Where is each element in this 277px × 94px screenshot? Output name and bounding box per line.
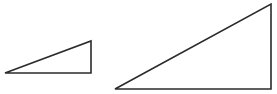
large-triangle — [115, 4, 271, 89]
diagram-canvas — [0, 0, 277, 94]
small-triangle — [5, 41, 91, 73]
